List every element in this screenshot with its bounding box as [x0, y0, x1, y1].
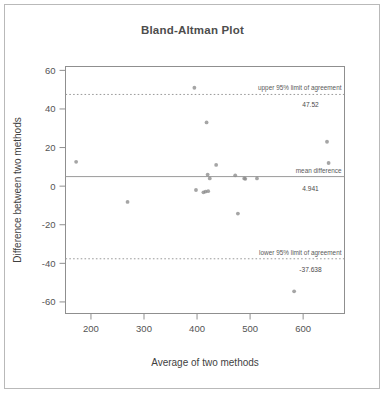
x-tick-label: 300: [136, 323, 152, 334]
y-tick-label: 60: [45, 65, 56, 76]
data-point: [192, 86, 196, 90]
data-point: [233, 173, 237, 177]
data-point: [325, 140, 329, 144]
y-axis-label: Difference between two methods: [12, 117, 23, 262]
data-point: [126, 200, 130, 204]
x-tick-label: 500: [242, 323, 258, 334]
data-point: [74, 160, 78, 164]
data-points: [74, 86, 330, 293]
reference-value-mean: 4.941: [302, 185, 319, 192]
chart-root: Bland-Altman Plot 2003004005006006040200…: [0, 0, 385, 394]
data-point: [205, 121, 209, 125]
reference-label-upper: upper 95% limit of agreement: [258, 84, 342, 92]
reference-lines: [66, 94, 345, 258]
x-tick-label: 400: [189, 323, 205, 334]
y-tick-label: -20: [42, 219, 56, 230]
plot-svg: 2003004005006006040200-20-40-60 upper 95…: [0, 0, 385, 394]
reference-value-lower: -37.638: [299, 266, 322, 273]
y-tick-label: 0: [50, 181, 55, 192]
y-tick-label: -60: [42, 296, 56, 307]
data-point: [206, 189, 210, 193]
x-tick-label: 600: [295, 323, 311, 334]
data-point: [194, 188, 198, 192]
reference-label-mean: mean difference: [296, 167, 342, 174]
reference-line-annotations: upper 95% limit of agreement47.52mean di…: [258, 84, 342, 272]
data-point: [243, 177, 247, 181]
reference-value-upper: 47.52: [302, 101, 319, 108]
data-point: [292, 289, 296, 293]
plot-area: 2003004005006006040200-20-40-60 upper 95…: [0, 0, 385, 394]
x-tick-label: 200: [83, 323, 99, 334]
reference-label-lower: lower 95% limit of agreement: [259, 249, 342, 257]
x-axis-label: Average of two methods: [151, 357, 259, 368]
y-tick-label: 40: [45, 103, 56, 114]
data-point: [214, 163, 218, 167]
data-point: [255, 177, 259, 181]
data-point: [236, 212, 240, 216]
axis-ticks: 2003004005006006040200-20-40-60: [42, 65, 311, 334]
data-point: [208, 177, 212, 181]
y-tick-label: 20: [45, 142, 56, 153]
data-point: [206, 173, 210, 177]
data-point: [327, 161, 331, 165]
y-tick-label: -40: [42, 258, 56, 269]
